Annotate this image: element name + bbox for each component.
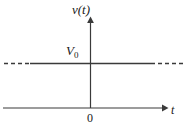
level-label-subscript: 0	[74, 50, 79, 60]
origin-label: 0	[87, 112, 93, 124]
waveform-diagram-canvas	[0, 0, 189, 130]
v-axis-arrowhead	[87, 17, 94, 24]
level-label-v0: V0	[66, 44, 78, 60]
t-axis-arrowhead	[162, 105, 169, 112]
x-axis-label: t	[171, 104, 174, 116]
waveform-figure: v(t) V0 t 0	[0, 0, 189, 130]
level-label-symbol: V	[66, 43, 74, 58]
y-axis-label: v(t)	[72, 3, 90, 16]
